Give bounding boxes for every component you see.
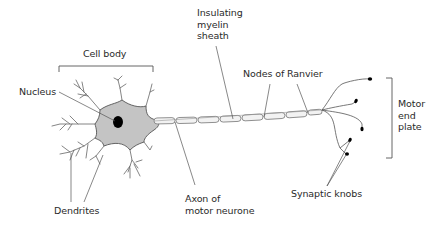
- label-nodes-of-ranvier: Nodes of Ranvier: [243, 68, 323, 80]
- label-motor-end-plate: Motor end plate: [398, 98, 425, 133]
- label-axon-of-motor-neurone: Axon of motor neurone: [185, 193, 255, 216]
- label-synaptic-knobs: Synaptic knobs: [291, 188, 362, 200]
- motor-end-plate-bracket: [386, 78, 392, 158]
- axon-terminals: [322, 79, 370, 154]
- ranvier-leader-1: [264, 84, 270, 117]
- label-nucleus: Nucleus: [19, 86, 56, 98]
- synaptic-leader-2: [327, 155, 346, 186]
- synaptic-leader-1: [327, 141, 350, 186]
- cell-body-bracket: [59, 66, 153, 72]
- label-dendrites: Dendrites: [54, 205, 99, 217]
- axon-leader: [175, 122, 195, 185]
- ranvier-leader-2: [297, 84, 308, 113]
- label-cell-body: Cell body: [83, 48, 126, 60]
- nucleus: [113, 116, 123, 128]
- dendrites-leader-2: [84, 155, 103, 202]
- synaptic-knobs: [345, 77, 372, 156]
- cell-body: [95, 100, 159, 150]
- myelin-leader: [216, 46, 233, 119]
- label-insulating-myelin-sheath: Insulating myelin sheath: [197, 7, 243, 42]
